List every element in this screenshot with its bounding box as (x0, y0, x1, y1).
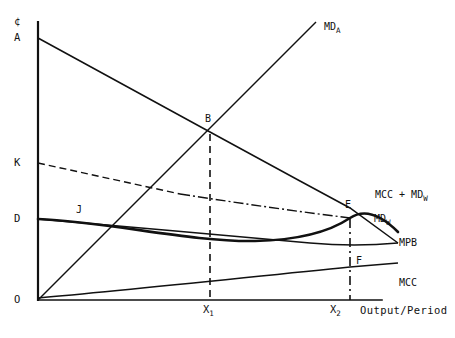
md-a-base: MD (324, 21, 336, 32)
curve-label-mcc-plus-md-w: MCC + MDW (375, 190, 428, 200)
point-label-f: F (356, 256, 362, 266)
md-w-base: MD (374, 213, 386, 224)
y-axis-label-d: D (14, 213, 20, 224)
mcc-plus-mdw-subscript: W (423, 194, 428, 203)
curve-label-mcc: MCC (399, 278, 417, 288)
y-axis-label-a: A (14, 32, 20, 43)
curve-mpb (38, 38, 398, 243)
x2-subscript: 2 (336, 309, 341, 318)
curve-label-mpb: MPB (399, 238, 417, 248)
mcc-plus-mdw-base: MCC + MD (375, 189, 423, 200)
point-label-b: B (205, 114, 211, 124)
x-axis-tick-x1: X1 (203, 304, 214, 315)
x-axis-tick-x2: X2 (330, 304, 341, 315)
curve-mcc (38, 263, 398, 298)
y-axis-label-o: O (14, 294, 20, 305)
y-axis-unit-label: ¢ (14, 16, 20, 27)
point-label-e: E (345, 200, 351, 210)
curve-md-a (38, 22, 316, 300)
externality-diagram-svg (0, 0, 455, 338)
y-axis-label-k: K (14, 157, 20, 168)
diagram-canvas: ¢ A K D O X1 X2 Output/Period B J E F MD… (0, 0, 455, 338)
curve-label-md-w: MDW (374, 214, 391, 224)
x1-subscript: 1 (209, 309, 214, 318)
x-axis-title: Output/Period (360, 305, 447, 316)
md-w-subscript: W (386, 218, 391, 227)
curve-md-w-from-k-dashdot (180, 194, 350, 218)
md-a-subscript: A (336, 26, 341, 35)
point-label-j: J (76, 205, 82, 215)
curve-label-md-a: MDA (324, 22, 341, 32)
